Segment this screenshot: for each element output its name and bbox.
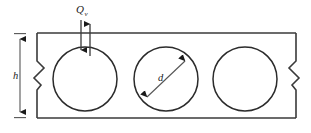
beam-left-edge-break: [34, 33, 44, 118]
beam-web-opening-diagram: Qv h d: [0, 0, 311, 133]
shear-force-arrows-group: [81, 20, 90, 56]
opening-3: [213, 47, 277, 111]
web-openings-group: [53, 47, 277, 111]
figure-container: Qv h d: [0, 0, 311, 133]
shear-force-label: Qv: [76, 3, 88, 18]
shear-force-subscript: v: [84, 10, 88, 18]
beam-outline-group: [34, 33, 299, 118]
beam-height-label: h: [13, 70, 18, 81]
opening-1: [53, 47, 117, 111]
labels-group: Qv h d: [13, 3, 164, 83]
diameter-dimension-group: [147, 61, 185, 97]
opening-diameter-label: d: [158, 72, 164, 83]
diameter-dimension-line: [147, 61, 185, 97]
shear-force-symbol: Q: [76, 3, 84, 15]
beam-right-edge-break: [289, 33, 299, 118]
